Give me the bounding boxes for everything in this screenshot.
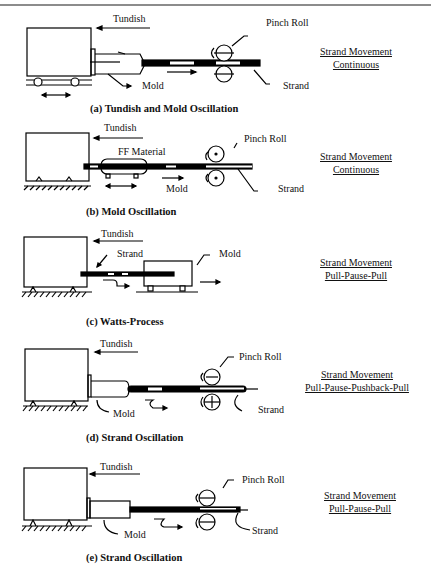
label-tundish: Tundish <box>100 339 132 349</box>
label-tundish: Tundish <box>101 229 133 239</box>
strand-movement-b: Strand Movement Continuous <box>286 150 426 176</box>
label-ff-material: FF Material <box>118 147 166 157</box>
label-pinch-roll: Pinch Roll <box>244 134 287 144</box>
label-mold: Mold <box>142 81 164 91</box>
movement-mode: Pull-Pause-Pushback-Pull <box>282 381 431 394</box>
caption-b: (b) Mold Oscillation <box>86 207 176 218</box>
panel-d: Tundish Pinch Roll Mold Strand Strand Mo… <box>0 335 431 460</box>
label-strand: Strand <box>117 249 143 259</box>
movement-title: Strand Movement <box>286 256 426 269</box>
movement-title: Strand Movement <box>286 45 426 58</box>
movement-mode: Continuous <box>286 58 426 71</box>
movement-mode: Pull-Pause-Pull <box>290 502 430 515</box>
label-pinch-roll: Pinch Roll <box>266 18 309 28</box>
strand-movement-d: Strand Movement Pull-Pause-Pushback-Pull <box>282 368 431 394</box>
movement-title: Strand Movement <box>282 368 431 381</box>
label-strand: Strand <box>252 526 278 536</box>
caption-e: (e) Strand Oscillation <box>86 553 182 564</box>
strand-movement-a: Strand Movement Continuous <box>286 45 426 71</box>
panel-e: Tundish Pinch Roll Mold Strand Strand Mo… <box>0 460 431 575</box>
movement-title: Strand Movement <box>286 150 426 163</box>
label-strand: Strand <box>278 184 304 194</box>
panel-c: Tundish Strand Mold Strand Movement Pull… <box>0 225 431 335</box>
label-tundish: Tundish <box>113 14 145 24</box>
tundish-box <box>27 28 91 76</box>
panel-b: Tundish Pinch Roll FF Material Mold Stra… <box>0 110 431 220</box>
label-tundish: Tundish <box>100 462 132 472</box>
panel-a: Tundish Pinch Roll Mold Strand Strand Mo… <box>0 0 431 110</box>
label-mold: Mold <box>166 184 188 194</box>
label-mold: Mold <box>219 249 241 259</box>
label-strand: Strand <box>283 81 309 91</box>
strand-movement-e: Strand Movement Pull-Pause-Pull <box>290 489 430 515</box>
label-mold: Mold <box>124 530 146 540</box>
movement-title: Strand Movement <box>290 489 430 502</box>
movement-mode: Pull-Pause-Pull <box>286 269 426 282</box>
caption-d: (d) Strand Oscillation <box>86 433 183 444</box>
movement-mode: Continuous <box>286 163 426 176</box>
label-strand: Strand <box>258 405 284 415</box>
label-mold: Mold <box>113 409 135 419</box>
caption-c: (c) Watts-Process <box>86 317 163 328</box>
panel-e-drawing <box>0 460 431 575</box>
label-pinch-roll: Pinch Roll <box>239 352 282 362</box>
strand-movement-c: Strand Movement Pull-Pause-Pull <box>286 256 426 282</box>
panel-d-drawing <box>0 335 431 460</box>
label-pinch-roll: Pinch Roll <box>242 475 285 485</box>
label-tundish: Tundish <box>104 123 136 133</box>
